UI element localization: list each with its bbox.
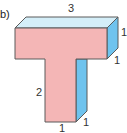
stem-side-face (76, 59, 87, 122)
front-face (15, 28, 107, 122)
dimension-stem-height: 2 (36, 87, 42, 98)
dimension-top-bar-height: 1 (114, 55, 120, 66)
dimension-stem-width: 1 (59, 123, 65, 133)
dimension-top-depth: 1 (121, 27, 127, 38)
dimension-stem-depth: 1 (83, 117, 89, 128)
dimension-top-length: 3 (68, 3, 74, 14)
t-prism-shape (0, 0, 127, 133)
top-face (15, 17, 118, 28)
t-prism-diagram: b) 3 1 1 2 1 1 (0, 0, 127, 133)
